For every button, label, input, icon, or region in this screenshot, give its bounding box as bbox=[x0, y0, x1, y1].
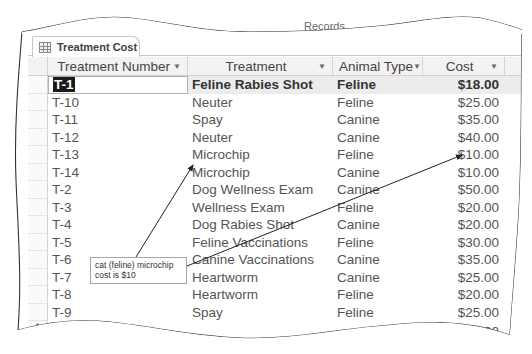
cell-treatment[interactable]: Neuter bbox=[188, 94, 333, 112]
cell-animal-type[interactable]: Feline bbox=[333, 146, 423, 164]
cell-animal-type[interactable]: Canine bbox=[333, 216, 423, 234]
cell-animal-type[interactable]: Canine bbox=[333, 164, 423, 182]
row-selector[interactable] bbox=[28, 164, 48, 182]
row-selector[interactable] bbox=[28, 234, 48, 252]
column-header-treatment-number[interactable]: Treatment Number ▼ bbox=[48, 57, 188, 75]
select-all-corner[interactable] bbox=[28, 57, 48, 75]
cell-treatment[interactable]: Heartworm bbox=[188, 269, 333, 287]
cell-treatment-number[interactable]: T-12 bbox=[48, 129, 188, 147]
row-selector[interactable] bbox=[28, 304, 48, 322]
cell-animal-type[interactable]: Feline bbox=[333, 304, 423, 322]
cell-treatment[interactable]: Microchip bbox=[188, 164, 333, 182]
cell-cost[interactable]: $35.00 bbox=[423, 251, 505, 269]
cell-animal-type[interactable]: Feline bbox=[333, 286, 423, 304]
cell-treatment[interactable]: Canine Vaccinations bbox=[188, 251, 333, 269]
column-header-cost[interactable]: Cost ▼ bbox=[423, 57, 505, 75]
datasheet-window: Treatment Cost Treatment Number ▼ Treatm… bbox=[22, 34, 522, 334]
cell-treatment-number[interactable] bbox=[48, 321, 188, 334]
table-row[interactable]: T-12 Neuter Canine $40.00 bbox=[28, 129, 522, 147]
cell-cost[interactable]: $30.00 bbox=[423, 234, 505, 252]
dropdown-arrow-icon[interactable]: ▼ bbox=[318, 62, 326, 71]
row-selector[interactable] bbox=[28, 216, 48, 234]
dropdown-arrow-icon[interactable]: ▼ bbox=[413, 62, 421, 71]
cell-cost[interactable]: $20.00 bbox=[423, 199, 505, 217]
row-selector[interactable] bbox=[28, 94, 48, 112]
cell-animal-type[interactable]: Feline bbox=[333, 76, 423, 94]
table-row[interactable]: T-13 Microchip Feline $10.00 bbox=[28, 146, 522, 164]
cell-animal-type[interactable]: Canine bbox=[333, 269, 423, 287]
table-row[interactable]: T-1 Feline Rabies Shot Feline $18.00 bbox=[28, 76, 522, 94]
row-selector[interactable] bbox=[28, 129, 48, 147]
dropdown-arrow-icon[interactable]: ▼ bbox=[490, 62, 498, 71]
cell-treatment-number[interactable]: T-8 bbox=[48, 286, 188, 304]
row-selector[interactable] bbox=[28, 251, 48, 269]
cell-animal-type[interactable]: Canine bbox=[333, 129, 423, 147]
cell-treatment[interactable]: Feline Vaccinations bbox=[188, 234, 333, 252]
cell-animal-type[interactable]: Canine bbox=[333, 181, 423, 199]
cell-cost[interactable]: $25.00 bbox=[423, 269, 505, 287]
cell-cost[interactable]: $10.00 bbox=[423, 164, 505, 182]
cell-treatment-number[interactable]: T-11 bbox=[48, 111, 188, 129]
cell-animal-type[interactable]: Feline bbox=[333, 234, 423, 252]
new-record-row[interactable]: ✱ $0.00 bbox=[28, 321, 522, 334]
cell-treatment-number[interactable]: T-1 bbox=[48, 76, 188, 94]
cell-treatment-number[interactable]: T-13 bbox=[48, 146, 188, 164]
dropdown-arrow-icon[interactable]: ▼ bbox=[173, 62, 181, 71]
cell-treatment[interactable]: Dog Wellness Exam bbox=[188, 181, 333, 199]
column-header-add-field[interactable] bbox=[505, 57, 522, 75]
table-row[interactable]: T-8 Heartworm Feline $20.00 bbox=[28, 286, 522, 304]
cell-animal-type[interactable] bbox=[333, 321, 423, 334]
cell-treatment[interactable]: Heartworm bbox=[188, 286, 333, 304]
cell-treatment[interactable]: Microchip bbox=[188, 146, 333, 164]
cell-cost[interactable]: $25.00 bbox=[423, 94, 505, 112]
cell-treatment[interactable]: Wellness Exam bbox=[188, 199, 333, 217]
cell-treatment[interactable]: Spay bbox=[188, 111, 333, 129]
cell-cost[interactable]: $40.00 bbox=[423, 129, 505, 147]
table-row[interactable]: T-10 Neuter Feline $25.00 bbox=[28, 94, 522, 112]
row-selector[interactable] bbox=[28, 111, 48, 129]
table-row[interactable]: T-3 Wellness Exam Feline $20.00 bbox=[28, 199, 522, 217]
cell-cost[interactable]: $0.00 bbox=[423, 321, 505, 334]
cell-animal-type[interactable]: Feline bbox=[333, 94, 423, 112]
cell-treatment[interactable]: Dog Rabies Shot bbox=[188, 216, 333, 234]
cell-cost[interactable]: $10.00 bbox=[423, 146, 505, 164]
cell-treatment-number[interactable]: T-14 bbox=[48, 164, 188, 182]
table-row[interactable]: T-5 Feline Vaccinations Feline $30.00 bbox=[28, 234, 522, 252]
table-row[interactable]: T-9 Spay Feline $25.00 bbox=[28, 304, 522, 322]
cell-treatment[interactable]: Feline Rabies Shot bbox=[188, 76, 333, 94]
row-selector[interactable] bbox=[28, 269, 48, 287]
row-selector[interactable] bbox=[28, 199, 48, 217]
table-row[interactable]: T-4 Dog Rabies Shot Canine $20.00 bbox=[28, 216, 522, 234]
cell-treatment-number[interactable]: T-4 bbox=[48, 216, 188, 234]
cell-animal-type[interactable]: Canine bbox=[333, 251, 423, 269]
annotation-callout: cat (feline) microchip cost is $10 bbox=[90, 257, 187, 284]
cell-cost[interactable]: $25.00 bbox=[423, 304, 505, 322]
cell-treatment[interactable]: Spay bbox=[188, 304, 333, 322]
cell-cost[interactable]: $20.00 bbox=[423, 216, 505, 234]
ribbon-group-sort-filter: Sort & Filter bbox=[90, 20, 148, 32]
cell-animal-type[interactable]: Canine bbox=[333, 111, 423, 129]
table-row[interactable]: T-14 Microchip Canine $10.00 bbox=[28, 164, 522, 182]
cell-treatment-number[interactable]: T-10 bbox=[48, 94, 188, 112]
row-selector[interactable] bbox=[28, 286, 48, 304]
table-row[interactable]: T-2 Dog Wellness Exam Canine $50.00 bbox=[28, 181, 522, 199]
cell-treatment-number[interactable]: T-3 bbox=[48, 199, 188, 217]
cell-treatment-number[interactable]: T-5 bbox=[48, 234, 188, 252]
row-selector[interactable] bbox=[28, 181, 48, 199]
cell-cost[interactable]: $20.00 bbox=[423, 286, 505, 304]
cell-treatment-number[interactable]: T-2 bbox=[48, 181, 188, 199]
cell-animal-type[interactable]: Feline bbox=[333, 199, 423, 217]
cell-treatment-number[interactable]: T-9 bbox=[48, 304, 188, 322]
column-header-animal-type[interactable]: Animal Type ▼ bbox=[333, 57, 423, 75]
row-selector[interactable] bbox=[28, 146, 48, 164]
tab-treatment-cost[interactable]: Treatment Cost bbox=[32, 36, 140, 57]
row-selector[interactable] bbox=[28, 76, 48, 94]
new-record-icon[interactable]: ✱ bbox=[28, 321, 48, 334]
cell-cost[interactable]: $50.00 bbox=[423, 181, 505, 199]
cell-cost[interactable]: $18.00 bbox=[423, 76, 505, 94]
cell-cost[interactable]: $35.00 bbox=[423, 111, 505, 129]
column-header-treatment[interactable]: Treatment ▼ bbox=[188, 57, 333, 75]
cell-treatment[interactable] bbox=[188, 321, 333, 334]
table-row[interactable]: T-11 Spay Canine $35.00 bbox=[28, 111, 522, 129]
cell-treatment[interactable]: Neuter bbox=[188, 129, 333, 147]
